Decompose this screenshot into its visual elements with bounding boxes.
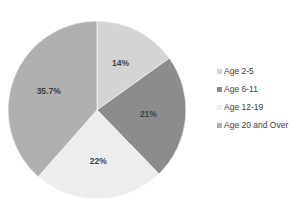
pie-data-label: 22% <box>90 156 107 166</box>
chart-legend: Age 2-5Age 6-11Age 12-19Age 20 and Over <box>217 62 305 134</box>
pie-plot-area: 14%21%22%35.7% <box>8 8 204 205</box>
legend-swatch-icon <box>217 69 222 74</box>
pie-chart-figure: 14%21%22%35.7% Age 2-5Age 6-11Age 12-19A… <box>0 0 305 205</box>
pie-data-label: 35.7% <box>37 86 62 96</box>
legend-item[interactable]: Age 12-19 <box>217 98 305 116</box>
legend-item-label: Age 2-5 <box>224 66 254 76</box>
legend-item-label: Age 20 and Over <box>224 120 288 130</box>
pie-data-label: 14% <box>112 58 129 68</box>
legend-item-label: Age 6-11 <box>224 84 258 94</box>
pie-svg: 14%21%22%35.7% <box>8 8 204 205</box>
legend-swatch-icon <box>217 105 222 110</box>
pie-slice-group <box>8 21 186 199</box>
legend-item[interactable]: Age 20 and Over <box>217 116 305 134</box>
pie-data-label: 21% <box>140 109 157 119</box>
legend-swatch-icon <box>217 123 222 128</box>
legend-item-label: Age 12-19 <box>224 102 263 112</box>
legend-item[interactable]: Age 2-5 <box>217 62 305 80</box>
legend-swatch-icon <box>217 87 222 92</box>
legend-item[interactable]: Age 6-11 <box>217 80 305 98</box>
chart-title-cropped <box>0 0 305 7</box>
